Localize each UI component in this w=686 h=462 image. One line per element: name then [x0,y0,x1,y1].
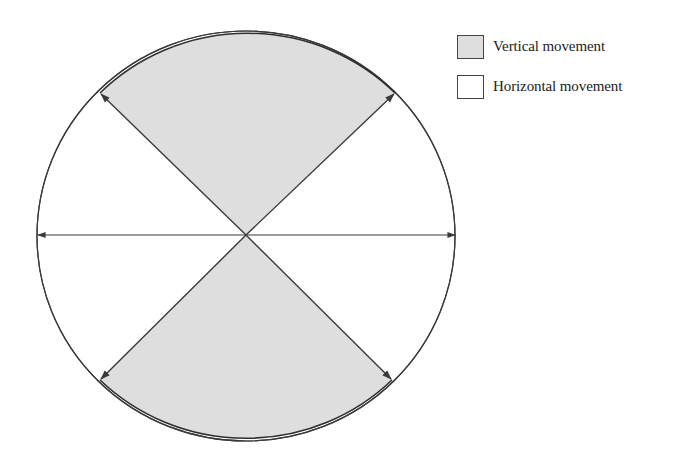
legend-label-horizontal: Horizontal movement [493,78,622,95]
legend-item-vertical: Vertical movement [457,33,622,60]
legend-label-vertical: Vertical movement [493,38,605,55]
legend-item-horizontal: Horizontal movement [457,73,622,100]
vertical-swatch-icon [457,35,484,59]
legend: Vertical movement Horizontal movement [457,33,622,113]
horizontal-swatch-icon [457,75,484,99]
